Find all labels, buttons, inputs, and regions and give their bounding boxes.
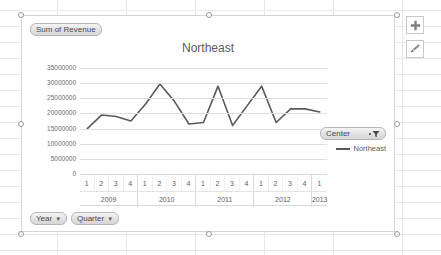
gridline bbox=[80, 113, 327, 114]
category-axis: 12341234123412341 20092010201120122013 bbox=[80, 174, 327, 206]
category-tick-quarter: 1 bbox=[254, 175, 269, 191]
category-axis-years: 20092010201120122013 bbox=[80, 192, 327, 207]
y-axis-tick-label: 35000000 bbox=[47, 65, 76, 72]
pivot-field-button-quarter[interactable]: Quarter ▼ bbox=[71, 212, 119, 225]
category-axis-quarters: 12341234123412341 bbox=[80, 175, 327, 192]
pivot-field-center-label: Center bbox=[326, 127, 350, 140]
pivot-field-values-label: Sum of Revenue bbox=[36, 23, 96, 36]
category-tick-year: 2010 bbox=[138, 192, 196, 207]
category-tick-quarter: 2 bbox=[269, 175, 284, 191]
selection-handle-bottom-left[interactable] bbox=[18, 231, 24, 237]
selection-handle-top-center[interactable] bbox=[206, 12, 212, 18]
category-tick-year: 2013 bbox=[312, 192, 327, 207]
selection-handle-bottom-center[interactable] bbox=[206, 231, 212, 237]
category-tick-quarter: 3 bbox=[225, 175, 240, 191]
category-tick-quarter: 4 bbox=[124, 175, 139, 191]
y-axis-tick-label: 15000000 bbox=[47, 125, 76, 132]
category-tick-quarter: 4 bbox=[298, 175, 313, 191]
category-tick-quarter: 1 bbox=[196, 175, 211, 191]
category-tick-quarter: 1 bbox=[80, 175, 95, 191]
legend-swatch-northeast bbox=[336, 148, 350, 150]
category-tick-quarter: 3 bbox=[109, 175, 124, 191]
y-axis-tick-label: 5000000 bbox=[51, 156, 76, 163]
category-tick-quarter: 4 bbox=[240, 175, 255, 191]
category-tick-quarter: 2 bbox=[153, 175, 168, 191]
category-tick-quarter: 3 bbox=[167, 175, 182, 191]
gridline bbox=[80, 68, 327, 69]
pivot-field-button-values[interactable]: Sum of Revenue bbox=[30, 23, 102, 36]
chevron-down-icon[interactable]: ▼ bbox=[55, 216, 61, 222]
category-tick-quarter: 2 bbox=[211, 175, 226, 191]
chart-title: Northeast bbox=[22, 41, 394, 55]
filter-funnel-icon[interactable] bbox=[369, 130, 380, 138]
gridline bbox=[80, 83, 327, 84]
selection-handle-bottom-right[interactable] bbox=[394, 231, 400, 237]
category-tick-quarter: 3 bbox=[283, 175, 298, 191]
y-axis-tick-label: 20000000 bbox=[47, 110, 76, 117]
gridline bbox=[80, 129, 327, 130]
pivot-field-year-label: Year bbox=[36, 212, 52, 225]
selection-handle-middle-left[interactable] bbox=[18, 121, 24, 127]
category-tick-quarter: 2 bbox=[95, 175, 110, 191]
filter-active-dot bbox=[369, 133, 371, 135]
selection-handle-top-right[interactable] bbox=[394, 12, 400, 18]
category-tick-year: 2012 bbox=[254, 192, 312, 207]
y-axis: 3500000030000000250000002000000015000000… bbox=[32, 68, 78, 174]
y-axis-tick-label: 10000000 bbox=[47, 140, 76, 147]
plot-area[interactable] bbox=[80, 68, 327, 174]
chart-legend[interactable]: Northeast bbox=[336, 144, 386, 153]
category-tick-quarter: 4 bbox=[182, 175, 197, 191]
pivot-field-button-year[interactable]: Year ▼ bbox=[30, 212, 67, 225]
selection-handle-top-left[interactable] bbox=[18, 12, 24, 18]
pivot-field-quarter-label: Quarter bbox=[77, 212, 104, 225]
pivot-field-button-center[interactable]: Center bbox=[320, 127, 386, 140]
category-tick-quarter: 1 bbox=[138, 175, 153, 191]
funnel-glyph bbox=[372, 130, 380, 138]
gridline bbox=[80, 144, 327, 145]
category-tick-year: 2009 bbox=[80, 192, 138, 207]
y-axis-tick-label: 30000000 bbox=[47, 80, 76, 87]
selection-handle-middle-right[interactable] bbox=[394, 121, 400, 127]
plus-icon bbox=[410, 20, 421, 31]
chart-elements-button[interactable] bbox=[406, 16, 424, 34]
chevron-down-icon[interactable]: ▼ bbox=[107, 216, 113, 222]
category-tick-year: 2011 bbox=[196, 192, 254, 207]
chart-styles-button[interactable] bbox=[406, 40, 424, 58]
y-axis-tick-label: 0 bbox=[72, 171, 76, 178]
category-tick-quarter: 1 bbox=[312, 175, 327, 191]
gridline bbox=[80, 159, 327, 160]
plot-region: 3500000030000000250000002000000015000000… bbox=[32, 68, 327, 174]
pivot-chart-object[interactable]: Sum of Revenue Northeast 350000003000000… bbox=[21, 15, 395, 232]
legend-label-northeast: Northeast bbox=[353, 144, 386, 153]
y-axis-tick-label: 25000000 bbox=[47, 95, 76, 102]
paintbrush-icon bbox=[409, 43, 421, 55]
gridline bbox=[80, 98, 327, 99]
